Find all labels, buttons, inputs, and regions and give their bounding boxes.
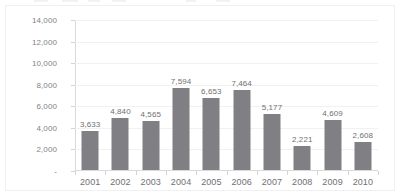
- x-axis-tick: [227, 171, 228, 175]
- x-axis-label-2010: 2010: [343, 177, 383, 187]
- bar-2006[interactable]: [233, 90, 250, 171]
- bar-chart-figure: 3,6334,8404,5657,5946,6537,4645,1772,221…: [0, 0, 401, 196]
- bar-value-label-2004: 7,594: [171, 77, 192, 86]
- x-axis-tick: [136, 171, 137, 175]
- bar-value-label-2009: 4,609: [322, 109, 343, 118]
- bar-2009[interactable]: [324, 120, 341, 170]
- bar-slot: 3,633: [75, 20, 105, 170]
- bar-slot: 4,840: [105, 20, 135, 170]
- bar-2010[interactable]: [354, 142, 371, 170]
- x-axis-tick: [257, 171, 258, 175]
- y-axis-tick-label: -: [0, 167, 57, 176]
- bar-slot: 4,609: [317, 20, 347, 170]
- bar-value-label-2008: 2,221: [292, 135, 313, 144]
- bar-2008[interactable]: [294, 146, 311, 170]
- y-axis-tick-label: 4,000: [0, 123, 57, 132]
- bar-value-label-2010: 2,608: [353, 131, 374, 140]
- y-axis-tick-label: 12,000: [0, 37, 57, 46]
- x-axis-tick: [287, 171, 288, 175]
- bar-slot: 7,464: [227, 20, 257, 170]
- bar-2003[interactable]: [142, 121, 159, 170]
- x-axis-tick: [378, 171, 379, 175]
- y-axis-tick-label: 8,000: [0, 80, 57, 89]
- bar-slot: 7,594: [166, 20, 196, 170]
- x-axis-tick: [75, 171, 76, 175]
- bar-value-label-2001: 3,633: [80, 120, 101, 129]
- bar-2001[interactable]: [82, 131, 99, 170]
- y-axis-tick-label: 10,000: [0, 59, 57, 68]
- bar-value-label-2007: 5,177: [262, 103, 283, 112]
- bar-slot: 2,608: [348, 20, 378, 170]
- bar-value-label-2003: 4,565: [140, 110, 161, 119]
- bar-slot: 5,177: [257, 20, 287, 170]
- y-axis-tick-label: 2,000: [0, 145, 57, 154]
- bar-value-label-2006: 7,464: [231, 79, 252, 88]
- y-axis-tick-label: 14,000: [0, 16, 57, 25]
- y-axis-tick-label: 6,000: [0, 102, 57, 111]
- x-axis-tick: [317, 171, 318, 175]
- x-axis-tick: [196, 171, 197, 175]
- bar-slot: 4,565: [136, 20, 166, 170]
- bar-2007[interactable]: [263, 114, 280, 170]
- bar-2005[interactable]: [203, 98, 220, 170]
- bar-2004[interactable]: [173, 88, 190, 170]
- bar-2002[interactable]: [112, 118, 129, 170]
- chart-plot-frame: 3,6334,8404,5657,5946,6537,4645,1772,221…: [5, 5, 395, 191]
- bars-layer: 3,6334,8404,5657,5946,6537,4645,1772,221…: [75, 20, 378, 171]
- bar-value-label-2002: 4,840: [110, 107, 131, 116]
- cropped-content-residue: [0, 0, 401, 4]
- x-axis-tick: [166, 171, 167, 175]
- bar-value-label-2005: 6,653: [201, 87, 222, 96]
- x-axis-tick: [348, 171, 349, 175]
- x-axis-tick: [105, 171, 106, 175]
- bar-slot: 6,653: [196, 20, 226, 170]
- bar-slot: 2,221: [287, 20, 317, 170]
